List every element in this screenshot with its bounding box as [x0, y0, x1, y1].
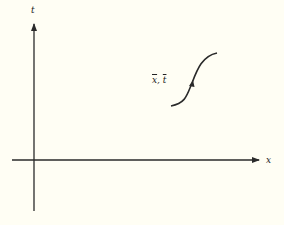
diagram-canvas: t x x, t: [0, 0, 284, 225]
t-axis-label: t: [31, 6, 35, 15]
curve-point-arrow-icon: [189, 80, 195, 87]
diagram-svg: [0, 0, 284, 225]
point-label-t: t: [163, 75, 167, 85]
x-axis-label: x: [266, 156, 271, 165]
point-label: x, t: [152, 76, 166, 85]
characteristic-curve: [171, 53, 217, 106]
